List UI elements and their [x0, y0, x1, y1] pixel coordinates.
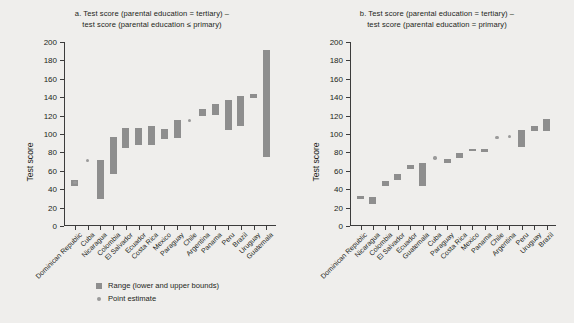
panel-a-y-axis-label: Test score	[25, 142, 35, 181]
x-axis-tick	[485, 226, 486, 230]
y-axis-tick	[346, 134, 350, 135]
y-axis-tick	[346, 171, 350, 172]
legend-item-point: Point estimate	[96, 294, 219, 303]
y-axis-tick-label: 20	[334, 203, 343, 212]
y-axis-tick-label: 60	[334, 166, 343, 175]
x-axis-tick	[361, 226, 362, 230]
range-bar	[110, 137, 117, 175]
y-axis-tick-label: 120	[44, 111, 57, 120]
x-axis-tick	[460, 226, 461, 230]
y-axis-tick-label: 20	[48, 203, 57, 212]
y-axis-tick	[346, 189, 350, 190]
x-axis-tick	[100, 226, 101, 230]
y-axis-tick-label: 60	[48, 166, 57, 175]
x-axis-tick	[410, 226, 411, 230]
x-axis-tick	[522, 226, 523, 230]
x-axis-tick	[139, 226, 140, 230]
y-axis-tick-label: 100	[44, 130, 57, 139]
x-axis-tick	[113, 226, 114, 230]
y-axis-tick	[60, 208, 64, 209]
range-bar	[199, 109, 206, 115]
x-axis-tick	[215, 226, 216, 230]
x-axis-tick	[534, 226, 535, 230]
point-estimate-dot-icon	[97, 297, 101, 301]
range-bar	[122, 128, 129, 148]
x-axis-tick	[385, 226, 386, 230]
chart-panel-b: b. Test score (parental education = tert…	[290, 0, 574, 323]
range-bar	[250, 94, 257, 98]
legend-item-range: Range (lower and upper bounds)	[96, 281, 219, 290]
y-axis-tick	[346, 60, 350, 61]
y-axis-tick-label: 200	[44, 38, 57, 47]
panel-b-title-line2: test score (parental education = primary…	[300, 20, 574, 31]
range-bar	[469, 149, 476, 152]
range-bar	[394, 174, 401, 180]
x-axis-tick	[373, 226, 374, 230]
y-axis-tick	[346, 152, 350, 153]
x-axis-tick	[177, 226, 178, 230]
y-axis-tick	[60, 226, 64, 227]
y-axis-tick	[60, 60, 64, 61]
x-axis-tick	[423, 226, 424, 230]
x-axis-tick	[472, 226, 473, 230]
range-bar	[263, 50, 270, 157]
range-bar	[382, 181, 389, 187]
point-estimate-marker	[188, 119, 191, 122]
y-axis-tick	[60, 116, 64, 117]
x-axis-tick-label: Dominican Republic	[34, 231, 83, 280]
panel-b-title: b. Test score (parental education = tert…	[290, 9, 574, 30]
x-axis-tick	[151, 226, 152, 230]
panel-a-plot-area: 020406080100120140160180200Dominican Rep…	[64, 42, 276, 226]
x-axis-tick	[228, 226, 229, 230]
panel-b-y-axis-label: Test score	[311, 142, 321, 181]
x-axis-tick	[509, 226, 510, 230]
panel-a-title-line2: test score (parental education ≤ primary…	[14, 20, 290, 31]
y-axis-tick	[346, 97, 350, 98]
y-axis-tick	[60, 42, 64, 43]
x-axis-tick	[547, 226, 548, 230]
range-bar	[456, 153, 463, 158]
chart-panel-a: a. Test score (parental education = tert…	[0, 0, 290, 323]
point-estimate-marker	[433, 156, 436, 159]
y-axis-tick	[60, 97, 64, 98]
y-axis-tick	[346, 208, 350, 209]
x-axis-tick	[398, 226, 399, 230]
range-bar	[148, 126, 155, 145]
y-axis-tick-label: 40	[334, 185, 343, 194]
panel-b-x-axis	[350, 225, 556, 226]
x-axis-tick	[241, 226, 242, 230]
range-bar	[212, 104, 219, 115]
y-axis-tick	[60, 171, 64, 172]
y-axis-tick	[60, 79, 64, 80]
y-axis-tick	[346, 79, 350, 80]
y-axis-tick-label: 200	[330, 38, 343, 47]
x-axis-tick	[435, 226, 436, 230]
legend-range-label: Range (lower and upper bounds)	[108, 281, 219, 290]
panel-a-x-axis	[64, 225, 276, 226]
y-axis-tick-label: 180	[44, 56, 57, 65]
panel-b-y-axis	[350, 42, 351, 226]
y-axis-tick	[60, 189, 64, 190]
y-axis-tick	[346, 42, 350, 43]
point-estimate-marker	[86, 159, 89, 162]
range-bar	[518, 130, 525, 147]
y-axis-tick-label: 120	[330, 111, 343, 120]
point-estimate-marker	[508, 135, 511, 138]
x-axis-tick	[75, 226, 76, 230]
y-axis-tick-label: 80	[334, 148, 343, 157]
y-axis-tick-label: 160	[330, 74, 343, 83]
range-bar	[97, 160, 104, 200]
x-axis-tick	[447, 226, 448, 230]
range-bar	[174, 120, 181, 137]
y-axis-tick-label: 100	[330, 130, 343, 139]
range-bar	[225, 100, 232, 130]
y-axis-tick-label: 140	[330, 93, 343, 102]
range-bar	[161, 129, 168, 138]
x-axis-tick	[190, 226, 191, 230]
x-axis-tick	[266, 226, 267, 230]
range-bar	[135, 128, 142, 145]
range-bar	[407, 165, 414, 169]
y-axis-tick	[346, 226, 350, 227]
panel-a-title: a. Test score (parental education = tert…	[0, 9, 290, 30]
range-bar	[237, 96, 244, 125]
